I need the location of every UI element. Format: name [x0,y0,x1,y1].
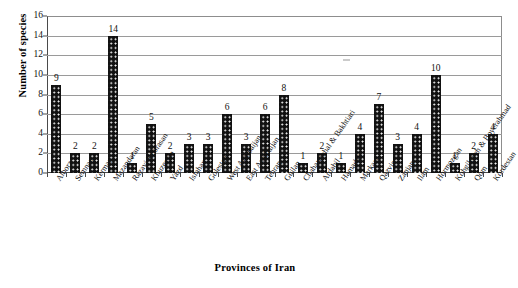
y-tick-label: 0 [38,168,43,178]
bar-value-label: 8 [282,84,287,94]
y-tick-label: 4 [38,129,43,139]
bar-value-label: 9 [54,74,59,84]
bar-slot: 3 [180,16,199,173]
y-tick-label: 8 [38,90,43,100]
x-axis-labels: AlborzSemnanKermanMazandaranRazavi Khora… [47,178,502,253]
bar-slot: 1 [293,16,312,173]
bar-value-label: 6 [225,103,230,113]
scan-artifact [343,59,350,61]
bar-slot: 14 [104,16,123,173]
bar-slot: 10 [426,16,445,173]
bar-slot: 3 [199,16,218,173]
y-tick-label: 2 [38,149,43,159]
bar-slot: 1 [331,16,350,173]
bar-value-label: 7 [376,93,381,103]
bar-value-label: 5 [149,113,154,123]
bar-value-label: 4 [414,123,419,133]
bar-slot: 6 [218,16,237,173]
bar[interactable] [108,36,118,173]
bar-value-label: 1 [301,152,306,162]
bar-slot: 9 [47,16,66,173]
bar-value-label: 4 [357,123,362,133]
bar-slot: 7 [369,16,388,173]
y-tick-label: 14 [34,31,44,41]
bar[interactable] [51,85,61,173]
bar-value-label: 3 [395,133,400,143]
bar-value-label: 3 [187,133,192,143]
bar-slot: 4 [407,16,426,173]
bar-value-label: 10 [431,64,441,74]
bar-value-label: 3 [244,133,249,143]
bar-value-label: 6 [263,103,268,113]
bar-value-label: 2 [73,142,78,152]
x-axis-title: Provinces of Iran [0,262,510,273]
y-tick-label: 6 [38,109,43,119]
bar-value-label: 14 [109,25,119,35]
bar-slot: 3 [388,16,407,173]
bar-slot: 4 [350,16,369,173]
y-tick-label: 10 [34,70,44,80]
bar[interactable] [431,75,441,173]
bar-slot: 2 [66,16,85,173]
bar-value-label: 3 [206,133,211,143]
bar-slot: 2 [85,16,104,173]
x-tick-mark [47,173,48,177]
y-tick-label: 16 [34,11,44,21]
bar-slot: 4 [483,16,502,173]
bar-value-label: 2 [92,142,97,152]
bar-slot: 8 [275,16,294,173]
y-tick-label: 12 [34,51,44,61]
y-axis-title: Number of species [17,0,28,126]
